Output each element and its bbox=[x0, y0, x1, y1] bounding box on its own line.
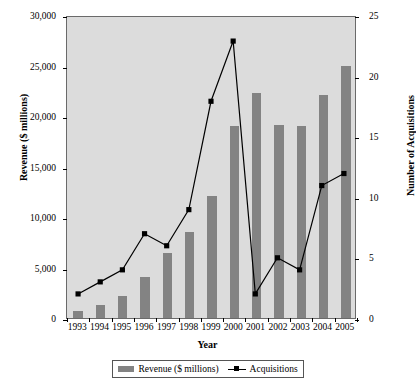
tickmark-right bbox=[355, 17, 359, 18]
tickmark-left bbox=[63, 219, 67, 220]
tickmark-x bbox=[290, 318, 291, 322]
x-tick-1996: 1996 bbox=[135, 322, 154, 332]
acquisitions-marker-1999 bbox=[208, 99, 213, 104]
x-tick-2001: 2001 bbox=[246, 322, 265, 332]
tickmark-left bbox=[63, 118, 67, 119]
y-left-tick-20000: 20,000 bbox=[30, 112, 62, 122]
tickmark-left bbox=[63, 169, 67, 170]
y-right-tick-5: 5 bbox=[363, 253, 374, 263]
x-tick-1999: 1999 bbox=[202, 322, 221, 332]
tickmark-right bbox=[355, 78, 359, 79]
tickmark-x bbox=[179, 318, 180, 322]
y-left-tick-30000: 30,000 bbox=[30, 11, 62, 21]
plot-area bbox=[66, 16, 356, 319]
acquisitions-marker-2004 bbox=[319, 183, 324, 188]
acquisitions-marker-2001 bbox=[253, 291, 258, 296]
acquisitions-marker-2002 bbox=[275, 255, 280, 260]
tickmark-x bbox=[335, 318, 336, 322]
tickmark-right bbox=[355, 138, 359, 139]
tickmark-left bbox=[63, 68, 67, 69]
y-right-tick-25: 25 bbox=[363, 11, 379, 21]
acquisitions-marker-1996 bbox=[142, 231, 147, 236]
y-right-tick-0: 0 bbox=[363, 314, 374, 324]
y-axis-left-ticks: 05,00010,00015,00020,00025,00030,000 bbox=[0, 0, 62, 383]
y-right-tick-10: 10 bbox=[363, 193, 379, 203]
acquisitions-marker-2000 bbox=[231, 38, 236, 43]
y-left-tick-5000: 5,000 bbox=[35, 264, 62, 274]
legend-item-acquisitions: Acquisitions bbox=[228, 364, 298, 374]
tickmark-x bbox=[112, 318, 113, 322]
acquisitions-marker-1995 bbox=[120, 267, 125, 272]
y-axis-right-ticks: 0510152025 bbox=[363, 0, 408, 383]
legend-label-acquisitions: Acquisitions bbox=[250, 364, 298, 374]
tickmark-right bbox=[355, 199, 359, 200]
tickmark-x bbox=[201, 318, 202, 322]
tickmark-x bbox=[357, 318, 358, 322]
tickmark-x bbox=[312, 318, 313, 322]
x-tick-2000: 2000 bbox=[224, 322, 243, 332]
x-tick-2003: 2003 bbox=[291, 322, 310, 332]
chart-legend: Revenue ($ millions) Acquisitions bbox=[112, 360, 304, 378]
x-tick-1995: 1995 bbox=[112, 322, 131, 332]
acquisitions-marker-2003 bbox=[297, 267, 302, 272]
tickmark-x bbox=[245, 318, 246, 322]
acquisitions-marker-1993 bbox=[75, 291, 80, 296]
tickmark-x bbox=[67, 318, 68, 322]
x-tick-1994: 1994 bbox=[90, 322, 109, 332]
x-tick-2004: 2004 bbox=[313, 322, 332, 332]
acquisitions-marker-1997 bbox=[164, 243, 169, 248]
tickmark-x bbox=[268, 318, 269, 322]
y-left-tick-25000: 25,000 bbox=[30, 62, 62, 72]
acquisitions-marker-1998 bbox=[186, 207, 191, 212]
legend-item-revenue: Revenue ($ millions) bbox=[118, 364, 218, 374]
tickmark-right bbox=[355, 259, 359, 260]
acquisitions-marker-1994 bbox=[98, 279, 103, 284]
line-marker-swatch-icon bbox=[228, 365, 246, 373]
tickmark-left bbox=[63, 17, 67, 18]
tickmark-x bbox=[134, 318, 135, 322]
y-left-tick-15000: 15,000 bbox=[30, 163, 62, 173]
tickmark-x bbox=[223, 318, 224, 322]
x-axis-title: Year bbox=[0, 339, 415, 350]
acquisitions-line bbox=[78, 41, 344, 294]
tickmark-x bbox=[156, 318, 157, 322]
line-series bbox=[67, 17, 355, 318]
y-right-tick-15: 15 bbox=[363, 132, 379, 142]
y-left-tick-0: 0 bbox=[51, 314, 62, 324]
bar-swatch-icon bbox=[118, 366, 134, 372]
x-tick-1993: 1993 bbox=[68, 322, 87, 332]
x-tick-1997: 1997 bbox=[157, 322, 176, 332]
tickmark-x bbox=[89, 318, 90, 322]
x-tick-2005: 2005 bbox=[335, 322, 354, 332]
legend-label-revenue: Revenue ($ millions) bbox=[138, 364, 218, 374]
y-left-tick-10000: 10,000 bbox=[30, 213, 62, 223]
y-right-tick-20: 20 bbox=[363, 72, 379, 82]
x-tick-2002: 2002 bbox=[268, 322, 287, 332]
acquisitions-marker-2005 bbox=[341, 171, 346, 176]
tickmark-left bbox=[63, 270, 67, 271]
x-tick-1998: 1998 bbox=[179, 322, 198, 332]
